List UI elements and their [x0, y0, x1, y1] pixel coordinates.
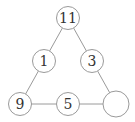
- node-bottom-right-empty: [103, 91, 129, 117]
- node-label: 9: [16, 96, 25, 112]
- node-label: 5: [64, 96, 73, 112]
- node-top: 11: [57, 7, 80, 30]
- node-label: 1: [40, 53, 49, 69]
- node-bottom-mid: 5: [57, 93, 80, 116]
- node-mid-left: 1: [33, 50, 56, 73]
- node-label: 3: [88, 53, 97, 69]
- node-label: 11: [59, 10, 77, 26]
- triangle-diagram: 11 1 3 9 5: [0, 0, 135, 122]
- node-mid-right: 3: [81, 50, 104, 73]
- node-bottom-left: 9: [9, 93, 32, 116]
